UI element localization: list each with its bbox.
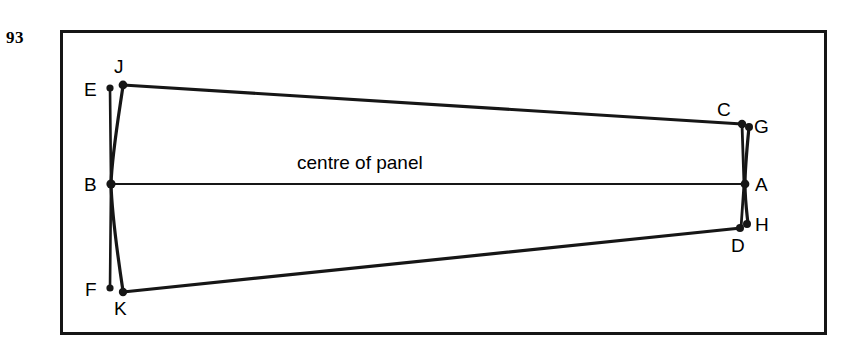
edge-left-curve-J-K — [111, 86, 123, 291]
vertex-dot-J — [119, 81, 128, 90]
vertex-label-E: E — [84, 80, 97, 99]
vertex-dot-H — [743, 220, 751, 228]
vertex-label-J: J — [114, 57, 124, 76]
vertex-dot-D — [736, 224, 744, 232]
vertex-label-K: K — [114, 299, 127, 318]
vertex-dot-A — [741, 180, 750, 189]
vertex-label-B: B — [84, 175, 97, 194]
vertex-dot-F — [106, 284, 113, 291]
vertex-label-G: G — [754, 117, 769, 136]
figure-page: 93 centre of panel E J B F K C G A — [0, 0, 860, 350]
vertex-label-F: F — [85, 280, 97, 299]
vertex-label-A: A — [755, 175, 768, 194]
vertex-dot-B — [106, 179, 115, 188]
vertex-dot-K — [119, 288, 127, 296]
edge-right-C-D — [741, 124, 744, 228]
vertex-dot-E — [106, 84, 113, 91]
vertex-dot-G — [745, 123, 753, 131]
edge-top-J-C — [123, 85, 742, 124]
centre-of-panel-caption: centre of panel — [297, 152, 423, 174]
edge-right-curve-G-H — [745, 127, 749, 224]
vertex-label-D: D — [731, 236, 745, 255]
vertex-label-H: H — [755, 215, 769, 234]
vertex-dot-C — [738, 120, 746, 128]
edge-bottom-K-D — [123, 228, 741, 292]
vertex-label-C: C — [717, 100, 731, 119]
panel-deflection-diagram — [0, 0, 860, 350]
